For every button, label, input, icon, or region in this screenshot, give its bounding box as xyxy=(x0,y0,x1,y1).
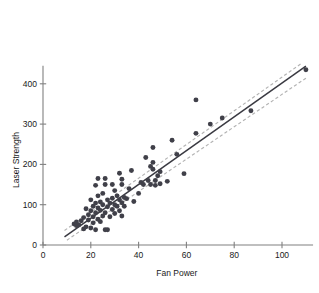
data-point xyxy=(150,167,155,172)
data-point xyxy=(303,67,308,72)
data-point xyxy=(110,182,115,187)
data-point xyxy=(103,176,108,181)
scatter-plot-figure: 020406080100 0100200300400 Fan Power Las… xyxy=(0,0,319,293)
data-point xyxy=(148,182,153,187)
x-axis-tick-label: 20 xyxy=(86,251,95,260)
data-point xyxy=(115,204,120,209)
data-point xyxy=(220,116,225,121)
y-axis-title: Laser Strength xyxy=(11,132,21,188)
data-point xyxy=(158,181,163,186)
data-point xyxy=(93,201,98,206)
data-point xyxy=(119,177,124,182)
data-point xyxy=(165,179,170,184)
data-point xyxy=(119,182,124,187)
data-point xyxy=(96,193,101,198)
x-axis-tick-label: 60 xyxy=(182,251,191,260)
data-point xyxy=(194,131,199,136)
data-point xyxy=(150,160,155,165)
data-point xyxy=(194,97,199,102)
data-point xyxy=(96,176,101,181)
data-point xyxy=(117,171,122,176)
x-axis-tick-label: 80 xyxy=(229,251,238,260)
data-point xyxy=(153,183,158,188)
data-point xyxy=(131,199,136,204)
data-point xyxy=(170,138,175,143)
x-axis-tick-label: 100 xyxy=(275,251,289,260)
data-point xyxy=(136,191,141,196)
y-axis-tick-label: 0 xyxy=(4,241,37,250)
data-point xyxy=(112,188,117,193)
data-point xyxy=(103,182,108,187)
data-point xyxy=(153,178,158,183)
data-point xyxy=(86,218,91,223)
data-point xyxy=(88,208,93,213)
data-point xyxy=(110,196,115,201)
data-points-group xyxy=(72,67,309,232)
data-point xyxy=(248,108,253,113)
data-point xyxy=(150,145,155,150)
data-point xyxy=(141,182,146,187)
data-point xyxy=(182,171,187,176)
data-point xyxy=(107,214,112,219)
plot-canvas xyxy=(0,0,319,293)
data-point xyxy=(93,210,98,215)
data-point xyxy=(84,224,89,229)
data-point xyxy=(174,152,179,157)
data-point xyxy=(124,196,129,201)
data-point xyxy=(88,197,93,202)
data-point xyxy=(81,215,86,220)
data-point xyxy=(208,122,213,127)
data-point xyxy=(88,226,93,231)
data-point xyxy=(105,227,110,232)
data-point xyxy=(117,208,122,213)
data-point xyxy=(119,214,124,219)
data-point xyxy=(112,211,117,216)
y-axis-tick-label: 400 xyxy=(4,80,37,89)
data-point xyxy=(93,183,98,188)
upper-confidence-band xyxy=(65,64,302,231)
x-axis-title: Fan Power xyxy=(156,268,197,278)
data-point xyxy=(107,201,112,206)
y-axis-tick-label: 100 xyxy=(4,200,37,209)
data-point xyxy=(129,168,134,173)
data-point xyxy=(127,186,132,191)
data-point xyxy=(91,220,96,225)
data-point xyxy=(122,204,127,209)
data-point xyxy=(98,219,103,224)
data-point xyxy=(143,155,148,160)
x-axis-tick-label: 40 xyxy=(134,251,143,260)
data-point xyxy=(103,210,108,215)
data-point xyxy=(93,227,98,232)
data-point xyxy=(100,191,105,196)
data-point xyxy=(100,202,105,207)
data-point xyxy=(84,206,89,211)
x-axis-tick-label: 0 xyxy=(41,251,46,260)
data-point xyxy=(98,208,103,213)
data-point xyxy=(158,169,163,174)
y-axis-tick-label: 300 xyxy=(4,120,37,129)
